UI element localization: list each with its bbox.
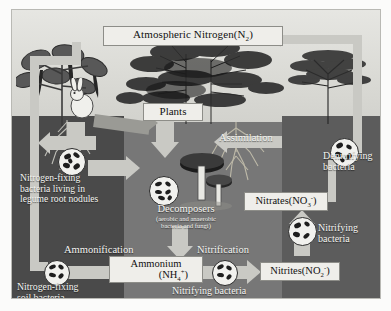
- atmospheric-nitrogen-box[interactable]: Atmospheric Nitrogen(N2): [103, 26, 283, 46]
- nitrifying-right-line1: Nitrifying: [318, 222, 358, 233]
- decomposers-sub-line2: bacteria and fungi): [138, 222, 234, 229]
- decomposers-sub-line1: (aerobic and anaerobic: [138, 215, 234, 222]
- plants-label: Plants: [160, 105, 187, 117]
- denitrifying-bacteria-label: Denitrifying bacteria: [323, 150, 372, 172]
- decomposers-title: Decomposers: [138, 203, 234, 215]
- bacteria-icon-nitrifying-right: [288, 217, 317, 246]
- nitrogen-fixing-legume-label: Nitrogen-fixing bacteria living in legum…: [20, 173, 98, 205]
- nitrogen-fixing-soil-label: Nitrogen-fixing soil bacteria: [17, 282, 79, 299]
- ammonium-label-line2: (NH4+): [110, 269, 202, 280]
- nitrites-label: Nitrites(NO2-): [270, 265, 329, 276]
- denitrifying-line1: Denitrifying: [323, 150, 372, 161]
- arrow-left-descender: [30, 56, 39, 271]
- nitrifying-right-line2: bacteria: [318, 233, 358, 244]
- ammonium-box[interactable]: Ammonium (NH4+): [109, 256, 203, 283]
- ammonification-label: Ammonification: [64, 244, 133, 256]
- arrow-ammonification: [68, 266, 114, 279]
- arrow-head-left-recycle: [38, 132, 50, 154]
- tree-icon: [288, 44, 376, 124]
- atmospheric-nitrogen-label: Atmospheric Nitrogen(N2): [133, 28, 253, 40]
- nitrites-box[interactable]: Nitrites(NO2-): [260, 262, 340, 281]
- arrow-head-nitrification: [247, 260, 261, 284]
- nitrates-box[interactable]: Nitrates(NO3-): [244, 192, 328, 211]
- arrow-head-legume-to-decomposers: [126, 156, 140, 180]
- arrow-head-plants-to-decomposers: [151, 142, 179, 158]
- denitrifying-line2: bacteria: [323, 161, 372, 172]
- ammonium-label-line1: Ammonium: [110, 258, 202, 269]
- diagram-frame: Atmospheric Nitrogen(N2) Plants Ammonium…: [11, 9, 381, 299]
- bacteria-icon-nitrifying-bottom: [212, 260, 238, 286]
- plants-box[interactable]: Plants: [143, 103, 203, 121]
- arrow-denitrification-to-atmosphere: [280, 35, 362, 44]
- nf-soil-line2: soil bacteria: [17, 293, 79, 299]
- nitrifying-bacteria-right-label: Nitrifying bacteria: [318, 222, 358, 244]
- assimilation-label: Assimilation: [219, 132, 273, 144]
- bacteria-icon-decomposers: [149, 176, 179, 206]
- nitrates-label: Nitrates(NO3-): [255, 195, 316, 206]
- arrow-riser-right: [353, 35, 362, 153]
- nf-legume-line3: legume root nodules: [20, 194, 98, 205]
- decomposers-label: Decomposers (aerobic and anaerobic bacte…: [138, 203, 234, 230]
- nitrogen-cycle-figure: Atmospheric Nitrogen(N2) Plants Ammonium…: [0, 0, 391, 311]
- nitrifying-bacteria-bottom-label: Nitrifying bacteria: [172, 285, 246, 296]
- nitrification-label: Nitrification: [197, 244, 249, 256]
